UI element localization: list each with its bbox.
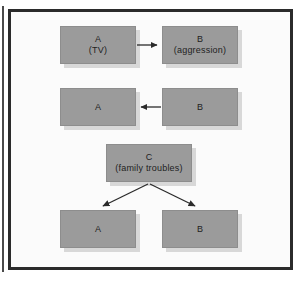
node-box-b-aggression: B (aggression) [162,26,238,64]
node-label: C [146,152,153,163]
node-box-a-middle: A [60,88,136,126]
arrow-c-to-b-bottom [150,184,195,206]
node-box-a-bottom: A [60,210,136,248]
node-box-c-family-troubles: C (family troubles) [106,144,192,182]
node-label: B [197,102,203,113]
node-box-b-bottom: B [162,210,238,248]
node-label: B [197,224,203,235]
node-label: A [95,102,101,113]
node-label: A [95,224,101,235]
node-label: B [197,34,203,45]
arrow-layer [0,0,307,281]
node-sublabel: (TV) [89,45,107,56]
figure-root: A (TV) B (aggression) A B C (family trou… [0,0,307,281]
node-sublabel: (family troubles) [115,163,182,174]
node-sublabel: (aggression) [174,45,226,56]
node-label: A [95,34,101,45]
node-box-b-middle: B [162,88,238,126]
arrow-c-to-a-bottom [103,184,148,206]
diagram-canvas: A (TV) B (aggression) A B C (family trou… [0,0,307,281]
node-box-a-tv: A (TV) [60,26,136,64]
